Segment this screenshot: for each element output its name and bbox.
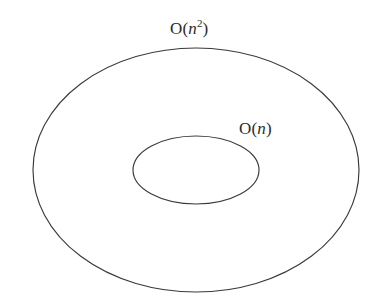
figure-canvas [0, 0, 383, 302]
inner-label-close-paren: ) [266, 119, 272, 138]
outer-label-function: O [170, 19, 182, 38]
outer-set-ellipse [33, 48, 359, 292]
complexity-nesting-figure: O(n2) O(n) [0, 0, 383, 302]
outer-label-close-paren: ) [203, 19, 209, 38]
inner-set-ellipse [133, 136, 259, 204]
inner-label-function: O [239, 119, 251, 138]
outer-label-variable: n [188, 19, 197, 38]
outer-set-label: O(n2) [170, 20, 208, 37]
inner-label-variable: n [257, 119, 266, 138]
inner-set-label: O(n) [239, 120, 272, 137]
